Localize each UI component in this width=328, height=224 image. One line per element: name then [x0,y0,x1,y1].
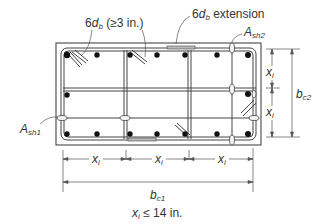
longitudinal-bars [64,52,251,137]
xi-sub: i [272,111,274,120]
ash2-sub: sh2 [252,31,265,40]
horizontal-crosstie [62,88,258,118]
xi-sub: i [224,158,226,167]
xi-sub: i [272,71,274,80]
xi-right-bottom: xi [266,106,274,120]
bc1-sub: c1 [157,194,165,203]
bc2-b: b [296,87,303,101]
dimension-right [266,49,300,137]
ash1-A: A [20,122,28,136]
tie-ovals [57,43,259,145]
hook-limit: (≥3 in.) [106,16,143,30]
ash2-A: A [244,25,252,39]
bc1-label: bc1 [150,189,165,203]
seismic-hooks [68,50,256,137]
extension-db-sub: b [205,13,209,22]
bc1-b: b [150,188,157,202]
limit-sub: i [138,212,140,221]
vertical-crossties [124,44,232,144]
ash1-label: Ash1 [20,123,41,137]
extension-overlaps [128,46,195,141]
xi-sub: i [161,158,163,167]
hook-coefficient: 6 [85,16,92,30]
xi-sub: i [98,158,100,167]
extension-text: extension [213,7,264,21]
extension-coefficient: 6 [192,7,199,21]
xi-bottom-2: xi [152,153,166,167]
column-outline [56,43,261,145]
limit-text: ≤ 14 in. [143,206,182,220]
leader-lines [40,16,242,124]
bc2-label: bc2 [296,88,311,102]
hook-length-label: 6db (≥3 in.) [85,17,143,31]
xi-right-top: xi [266,66,274,80]
hook-db-sub: b [98,22,102,31]
xi-bottom-3: xi [215,153,229,167]
extension-label: 6db extension [192,8,265,22]
spacing-limit-label: xi ≤ 14 in. [132,207,182,221]
ash2-label: Ash2 [244,26,265,40]
perimeter-hoop [61,48,256,140]
bc2-sub: c2 [303,93,311,102]
ash1-sub: sh1 [28,128,41,137]
xi-bottom-1: xi [89,153,103,167]
